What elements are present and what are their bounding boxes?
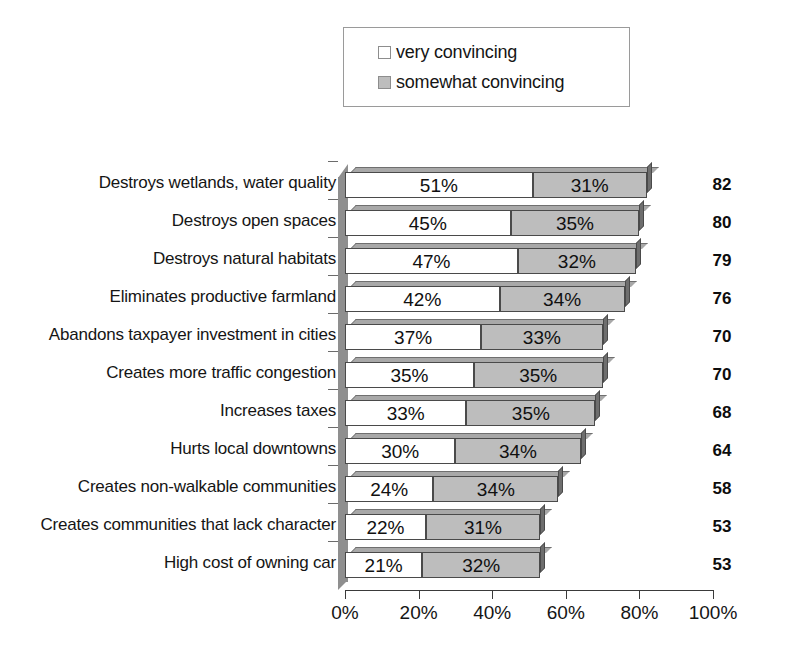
bar-segment-very-convincing[interactable]: 42% bbox=[345, 286, 500, 312]
bar-value-label: 51% bbox=[420, 176, 458, 195]
bar-row: Eliminates productive farmland42%34%76 bbox=[0, 281, 785, 319]
legend-swatch-very-convincing bbox=[378, 46, 391, 59]
bar-row: Abandons taxpayer investment in cities37… bbox=[0, 319, 785, 357]
bar-segment-somewhat-convincing[interactable]: 31% bbox=[426, 514, 540, 540]
bar-side-face bbox=[636, 238, 641, 269]
y-axis-tick bbox=[328, 351, 338, 352]
category-label: Creates more traffic congestion bbox=[106, 363, 336, 383]
row-total: 58 bbox=[713, 479, 732, 499]
bar-value-label: 37% bbox=[394, 328, 432, 347]
bar-segment-somewhat-convincing[interactable]: 34% bbox=[500, 286, 625, 312]
stacked-bar[interactable]: 47%32% bbox=[345, 248, 636, 274]
category-label: Hurts local downtowns bbox=[170, 439, 336, 459]
x-axis-tick-label: 80% bbox=[620, 602, 658, 624]
bar-value-label: 24% bbox=[370, 480, 408, 499]
bar-row: Destroys open spaces45%35%80 bbox=[0, 205, 785, 243]
bar-value-label: 34% bbox=[477, 480, 515, 499]
stacked-bar[interactable]: 30%34% bbox=[345, 438, 581, 464]
y-axis-tick bbox=[328, 389, 338, 390]
bar-value-label: 31% bbox=[464, 518, 502, 537]
x-axis-tick bbox=[419, 590, 420, 599]
bar-side-face bbox=[647, 162, 652, 193]
bar-segment-very-convincing[interactable]: 37% bbox=[345, 324, 481, 350]
bar-row: Creates more traffic congestion35%35%70 bbox=[0, 357, 785, 395]
bar-side-face bbox=[540, 504, 545, 535]
bar-side-face bbox=[595, 390, 600, 421]
row-total: 70 bbox=[713, 327, 732, 347]
bar-segment-somewhat-convincing[interactable]: 31% bbox=[533, 172, 647, 198]
x-axis-tick-label: 0% bbox=[331, 602, 358, 624]
y-axis-tick bbox=[328, 199, 338, 200]
category-label: Destroys natural habitats bbox=[153, 249, 336, 269]
category-label: Increases taxes bbox=[220, 401, 336, 421]
row-total: 76 bbox=[713, 289, 732, 309]
x-axis-tick-label: 60% bbox=[547, 602, 585, 624]
legend-label-very-convincing: very convincing bbox=[396, 42, 517, 63]
bar-segment-somewhat-convincing[interactable]: 34% bbox=[455, 438, 580, 464]
bar-value-label: 32% bbox=[462, 556, 500, 575]
stacked-bar[interactable]: 42%34% bbox=[345, 286, 625, 312]
y-axis-tick bbox=[328, 427, 338, 428]
bar-side-face bbox=[625, 276, 630, 307]
stacked-bar[interactable]: 22%31% bbox=[345, 514, 540, 540]
bar-segment-very-convincing[interactable]: 47% bbox=[345, 248, 518, 274]
bar-segment-somewhat-convincing[interactable]: 33% bbox=[481, 324, 602, 350]
bar-side-face bbox=[639, 200, 644, 231]
bar-segment-somewhat-convincing[interactable]: 34% bbox=[433, 476, 558, 502]
bar-side-face bbox=[540, 542, 545, 573]
bar-segment-very-convincing[interactable]: 21% bbox=[345, 552, 422, 578]
y-axis-tick bbox=[328, 541, 338, 542]
bar-segment-very-convincing[interactable]: 24% bbox=[345, 476, 433, 502]
bar-segment-somewhat-convincing[interactable]: 35% bbox=[474, 362, 603, 388]
bar-segment-somewhat-convincing[interactable]: 32% bbox=[518, 248, 636, 274]
legend-label-somewhat-convincing: somewhat convincing bbox=[396, 72, 564, 93]
bar-side-face bbox=[603, 314, 608, 345]
x-axis-tick bbox=[639, 590, 640, 599]
bar-segment-very-convincing[interactable]: 30% bbox=[345, 438, 455, 464]
bar-segment-very-convincing[interactable]: 33% bbox=[345, 400, 466, 426]
row-total: 79 bbox=[713, 251, 732, 271]
bar-segment-very-convincing[interactable]: 22% bbox=[345, 514, 426, 540]
x-axis-tick bbox=[713, 590, 714, 599]
row-total: 53 bbox=[713, 517, 732, 537]
bar-segment-somewhat-convincing[interactable]: 35% bbox=[466, 400, 595, 426]
bar-segment-very-convincing[interactable]: 45% bbox=[345, 210, 511, 236]
bar-segment-somewhat-convincing[interactable]: 35% bbox=[511, 210, 640, 236]
bar-value-label: 35% bbox=[519, 366, 557, 385]
category-label: Destroys wetlands, water quality bbox=[99, 173, 336, 193]
x-axis-tick-label: 100% bbox=[689, 602, 738, 624]
row-total: 82 bbox=[713, 175, 732, 195]
stacked-bar[interactable]: 21%32% bbox=[345, 552, 540, 578]
bar-value-label: 30% bbox=[381, 442, 419, 461]
bar-value-label: 47% bbox=[412, 252, 450, 271]
bar-segment-very-convincing[interactable]: 51% bbox=[345, 172, 533, 198]
stacked-bar[interactable]: 24%34% bbox=[345, 476, 558, 502]
y-axis-tick bbox=[328, 275, 338, 276]
chart-legend: very convincing somewhat convincing bbox=[343, 27, 630, 107]
row-total: 80 bbox=[713, 213, 732, 233]
bar-value-label: 34% bbox=[543, 290, 581, 309]
bar-row: Hurts local downtowns30%34%64 bbox=[0, 433, 785, 471]
stacked-bar[interactable]: 37%33% bbox=[345, 324, 603, 350]
bar-side-face bbox=[581, 428, 586, 459]
bar-row: Creates communities that lack character2… bbox=[0, 509, 785, 547]
bar-row: High cost of owning car21%32%53 bbox=[0, 547, 785, 585]
bar-row: Destroys natural habitats47%32%79 bbox=[0, 243, 785, 281]
stacked-bar[interactable]: 45%35% bbox=[345, 210, 639, 236]
row-total: 68 bbox=[713, 403, 732, 423]
row-total: 53 bbox=[713, 555, 732, 575]
bar-segment-very-convincing[interactable]: 35% bbox=[345, 362, 474, 388]
x-axis-tick bbox=[492, 590, 493, 599]
stacked-bar[interactable]: 35%35% bbox=[345, 362, 603, 388]
y-axis-tick bbox=[328, 237, 338, 238]
stacked-bar[interactable]: 51%31% bbox=[345, 172, 647, 198]
bar-row: Increases taxes33%35%68 bbox=[0, 395, 785, 433]
stacked-bar[interactable]: 33%35% bbox=[345, 400, 595, 426]
y-axis-tick bbox=[328, 313, 338, 314]
category-label: High cost of owning car bbox=[164, 553, 336, 573]
bar-segment-somewhat-convincing[interactable]: 32% bbox=[422, 552, 540, 578]
bar-value-label: 42% bbox=[403, 290, 441, 309]
x-axis-tick-label: 40% bbox=[473, 602, 511, 624]
category-label: Eliminates productive farmland bbox=[110, 287, 336, 307]
bar-value-label: 34% bbox=[499, 442, 537, 461]
